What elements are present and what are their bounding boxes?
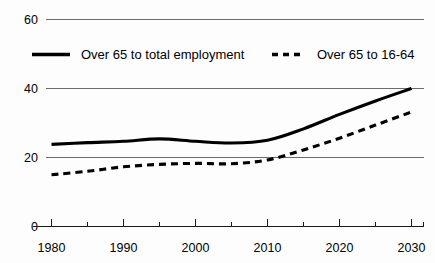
series-line-over-65-to-total-employment bbox=[52, 89, 412, 145]
y-tick-label-20: 20 bbox=[24, 151, 38, 165]
x-tick-label-1980: 1980 bbox=[38, 241, 66, 255]
chart-legend: Over 65 to total employment Over 65 to 1… bbox=[32, 47, 415, 62]
legend-label-1: Over 65 to 16-64 bbox=[317, 47, 415, 62]
x-tick-label-2030: 2030 bbox=[398, 241, 426, 255]
y-axis-labels: 60 40 20 0 bbox=[24, 13, 38, 234]
chart-canvas: 60 40 20 0 1980 1990 2000 2010 bbox=[0, 0, 435, 263]
y-tick-label-60: 60 bbox=[24, 13, 38, 27]
x-tick-label-2000: 2000 bbox=[182, 241, 210, 255]
gridlines bbox=[46, 20, 424, 158]
line-chart: 60 40 20 0 1980 1990 2000 2010 bbox=[0, 0, 435, 263]
x-tick-label-1990: 1990 bbox=[110, 241, 138, 255]
x-tick-label-2020: 2020 bbox=[326, 241, 354, 255]
x-axis-labels: 1980 1990 2000 2010 2020 2030 bbox=[38, 241, 426, 255]
x-tick-label-2010: 2010 bbox=[254, 241, 282, 255]
y-tick-label-40: 40 bbox=[24, 82, 38, 96]
x-axis-ticks bbox=[52, 219, 424, 227]
legend-label-0: Over 65 to total employment bbox=[81, 47, 245, 62]
